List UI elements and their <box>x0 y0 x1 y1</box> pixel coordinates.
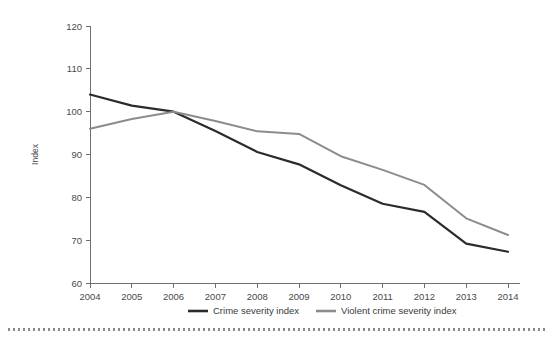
y-axis-title: Index <box>30 143 40 165</box>
y-tick-label: 100 <box>66 106 82 117</box>
y-tick-label: 120 <box>66 21 82 32</box>
y-tick-label: 60 <box>71 278 82 289</box>
x-tick-label: 2010 <box>330 291 351 302</box>
chart-figure: 6070809010011012020042005200620072008200… <box>0 0 556 340</box>
y-tick-label: 70 <box>71 235 82 246</box>
series-line-2 <box>90 112 508 235</box>
x-tick-label: 2005 <box>121 291 142 302</box>
x-tick-label: 2008 <box>247 291 268 302</box>
footer-dotted-divider <box>8 328 548 331</box>
y-tick-label: 80 <box>71 192 82 203</box>
y-tick-label: 110 <box>67 63 82 74</box>
line-chart: 6070809010011012020042005200620072008200… <box>0 0 556 340</box>
series-line-1 <box>90 95 508 252</box>
x-tick-label: 2007 <box>205 291 226 302</box>
x-tick-label: 2013 <box>456 291 477 302</box>
legend-label-1: Crime severity index <box>213 305 299 316</box>
x-tick-label: 2011 <box>372 291 392 302</box>
y-tick-label: 90 <box>71 149 82 160</box>
x-tick-label: 2012 <box>414 291 435 302</box>
x-tick-label: 2014 <box>497 291 518 302</box>
x-tick-label: 2004 <box>79 291 100 302</box>
x-tick-label: 2006 <box>163 291 184 302</box>
x-tick-label: 2009 <box>288 291 309 302</box>
legend-label-2: Violent crime severity index <box>341 305 457 316</box>
